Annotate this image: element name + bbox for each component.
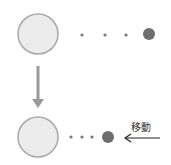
bottom-dot-1: [69, 135, 72, 138]
diagram-canvas: [0, 0, 171, 165]
down-arrow-icon: [32, 66, 44, 108]
bottom-dot-3: [90, 135, 93, 138]
top-dot-3: [124, 33, 127, 36]
top-large-circle: [18, 14, 58, 54]
top-dot-2: [103, 33, 106, 36]
move-label: 移動: [131, 119, 151, 134]
top-dot-1: [80, 33, 83, 36]
move-arrow-icon: [125, 134, 160, 142]
top-target-dot: [143, 28, 155, 40]
bottom-dot-2: [80, 135, 83, 138]
bottom-target-dot: [102, 131, 114, 143]
bottom-large-circle: [18, 117, 58, 157]
